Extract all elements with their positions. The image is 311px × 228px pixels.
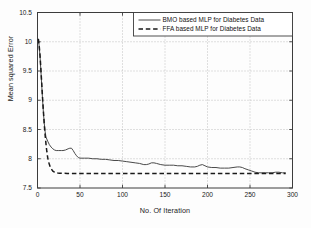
y-tick-label: 10.5 [8, 9, 32, 16]
x-tick-label: 50 [67, 191, 93, 198]
figure: Mean squared Error No. Of Iteration 7.58… [0, 0, 311, 228]
x-tick-label: 100 [110, 191, 136, 198]
x-tick-label: 150 [152, 191, 178, 198]
series-lines [38, 39, 285, 174]
y-tick-label: 8 [8, 155, 32, 162]
x-tick-label: 200 [195, 191, 221, 198]
y-tick-label: 9.5 [8, 67, 32, 74]
y-tick-label: 7.5 [8, 184, 32, 191]
x-tick-label: 300 [280, 191, 306, 198]
legend-entry-label: FFA based MLP for Diabetes Data [163, 25, 261, 32]
x-tick-label: 0 [25, 191, 51, 198]
y-tick-label: 9 [8, 96, 32, 103]
x-axis-title: No. Of Iteration [37, 206, 293, 215]
x-tick-label: 250 [237, 191, 263, 198]
legend-entry-label: BMO based MLP for Diabetes Data [163, 16, 265, 23]
grid-lines [38, 13, 293, 189]
y-tick-label: 10 [8, 38, 32, 45]
y-tick-label: 8.5 [8, 126, 32, 133]
